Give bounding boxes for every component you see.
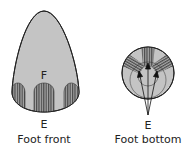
label-e-front: E [41,119,48,130]
caption-foot-front: Foot front [17,134,70,145]
label-e-bottom: E [145,120,152,131]
caption-foot-bottom: Foot bottom [115,134,182,145]
foot-front-grooves [10,83,80,114]
diagram-canvas [0,0,185,150]
foot-front-shape [10,11,80,114]
label-f-front: F [41,70,47,81]
